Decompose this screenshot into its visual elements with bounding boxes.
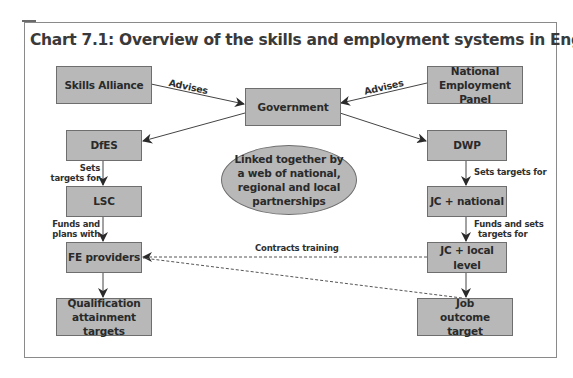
edge-label-dfes-to-lsc: Sets targets for xyxy=(42,163,100,183)
node-label: DfES xyxy=(90,138,117,152)
edge-label-text: Contracts training xyxy=(255,243,339,253)
node-label: FE providers xyxy=(68,250,140,264)
edge-label-line: Sets xyxy=(42,163,100,173)
node-label: JC + local level xyxy=(428,243,506,271)
edge-label-lsc-to-fe: Funds and plans with xyxy=(42,219,100,239)
node-label: Skills Alliance xyxy=(64,78,143,92)
node-dfes: DfES xyxy=(66,130,142,161)
node-jc-local-level: JC + local level xyxy=(427,242,507,273)
edge-label-line: Funds and sets xyxy=(474,219,544,229)
node-label: National Employment Panel xyxy=(428,64,522,107)
node-partnerships-ellipse: Linked together by a web of national, re… xyxy=(221,145,357,215)
edge-label-line: targets for xyxy=(42,173,100,183)
node-label: Linked together by a web of national, re… xyxy=(234,152,344,209)
node-jc-national: JC + national xyxy=(427,186,507,217)
node-national-employment-panel: National Employment Panel xyxy=(427,66,523,104)
node-fe-providers: FE providers xyxy=(66,242,142,273)
node-label: DWP xyxy=(453,138,480,152)
edge-label-text: Sets targets for xyxy=(474,167,546,177)
node-dwp: DWP xyxy=(427,130,507,161)
node-skills-alliance: Skills Alliance xyxy=(56,66,152,104)
node-government: Government xyxy=(245,88,341,126)
edge-label-line: Funds and xyxy=(42,219,100,229)
edge-label-line: plans with xyxy=(42,229,100,239)
edge-label-jc-national-to-jc-local: Funds and sets targets for xyxy=(474,219,544,239)
edge-label-dwp-to-jc-national: Sets targets for xyxy=(474,167,546,177)
node-job-outcome-target: Job outcome target xyxy=(417,298,513,336)
edge-label-line: targets for xyxy=(474,229,544,239)
node-label: Government xyxy=(257,100,328,114)
chart-title: Chart 7.1: Overview of the skills and em… xyxy=(30,31,550,49)
node-label: Job outcome target xyxy=(432,296,498,339)
node-label: Qualification attainment targets xyxy=(57,296,151,339)
node-label: JC + national xyxy=(430,194,504,208)
node-qualification-attainment-targets: Qualification attainment targets xyxy=(56,298,152,336)
edge-label-contracts-training: Contracts training xyxy=(255,243,339,253)
node-label: LSC xyxy=(93,194,114,208)
node-lsc: LSC xyxy=(66,186,142,217)
